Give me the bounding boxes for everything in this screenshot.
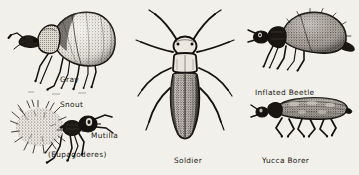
figure-inflated-beetle (252, 6, 356, 74)
label-line-1: Soldier (146, 157, 230, 165)
label-mutilla: Mutilla (91, 115, 118, 157)
soldier-beetle-drawing (136, 10, 234, 139)
label-line-1: Mutilla (91, 132, 118, 140)
insect-illustration-plate: Gray Snout Beetle (Eupagoderes) (0, 0, 359, 175)
figure-yucca-borer (256, 92, 356, 140)
yucca-borer-drawing (251, 98, 352, 138)
label-line-1: Yucca Borer (262, 157, 309, 165)
label-soldier-beetle: Soldier Beetle(Lytta) (146, 140, 230, 175)
figure-soldier-beetle (135, 6, 235, 146)
label-line-1: Gray (60, 76, 107, 84)
label-yucca-borer: Yucca Borer (262, 140, 309, 175)
inflated-beetle-drawing (248, 9, 354, 72)
